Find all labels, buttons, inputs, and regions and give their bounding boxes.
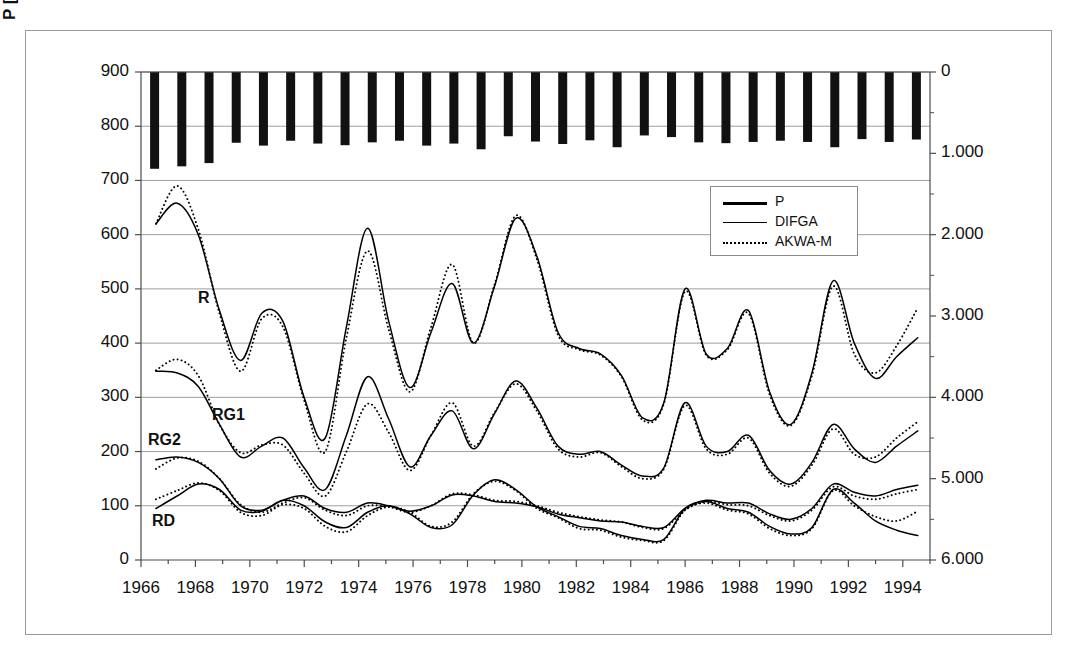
curve-rg2-difga	[156, 457, 918, 529]
legend-item-difga: DIFGA	[719, 213, 854, 233]
left-tick-label: 400	[0, 332, 129, 352]
precipitation-bar	[585, 72, 594, 140]
right-tick-label: 6.000	[941, 549, 984, 569]
x-tick-label: 1982	[550, 578, 602, 598]
left-tick-label: 0	[0, 549, 129, 569]
precipitation-bar	[830, 72, 839, 147]
precipitation-bar	[504, 72, 513, 136]
right-tick-label: 0	[941, 61, 950, 81]
right-tick-label: 3.000	[941, 305, 984, 325]
precipitation-bar	[749, 72, 758, 142]
precipitation-bar	[205, 72, 214, 163]
x-tick-label: 1994	[877, 578, 929, 598]
legend-label-p: P	[775, 193, 784, 209]
left-tick-label: 500	[0, 278, 129, 298]
precipitation-bar	[259, 72, 268, 146]
x-tick-label: 1974	[333, 578, 385, 598]
precipitation-bar	[857, 72, 866, 139]
x-tick-label: 1968	[169, 578, 221, 598]
precipitation-bar	[150, 72, 159, 169]
precipitation-bar	[422, 72, 431, 146]
precipitation-bar	[232, 72, 241, 143]
x-tick-label: 1988	[714, 578, 766, 598]
precipitation-bar	[341, 72, 350, 145]
left-tick-label: 200	[0, 441, 129, 461]
curve-rd-difga	[156, 480, 918, 542]
x-tick-label: 1980	[496, 578, 548, 598]
precipitation-bar	[368, 72, 377, 142]
left-tick-label: 800	[0, 115, 129, 135]
series-label-rd: RD	[152, 512, 175, 530]
legend-item-p: P	[719, 193, 854, 213]
precipitation-bar	[885, 72, 894, 142]
precipitation-bar	[531, 72, 540, 142]
right-tick-label: 2.000	[941, 224, 984, 244]
legend: P DIFGA AKWA-M	[710, 186, 858, 256]
right-axis-title: P [mm/a]	[0, 0, 20, 20]
legend-item-akwam: AKWA-M	[719, 233, 854, 253]
precipitation-bar	[694, 72, 703, 142]
x-tick-label: 1984	[605, 578, 657, 598]
series-label-r: R	[198, 289, 210, 307]
precipitation-bar	[395, 72, 404, 141]
curve-rd-akwa-m	[156, 481, 918, 543]
x-tick-label: 1978	[441, 578, 493, 598]
precipitation-bar	[912, 72, 921, 140]
precipitation-bar	[640, 72, 649, 135]
precipitation-bar	[613, 72, 622, 147]
curve-rg1-akwa-m	[156, 359, 918, 496]
precipitation-bar	[776, 72, 785, 141]
precipitation-bar	[286, 72, 295, 141]
right-tick-label: 1.000	[941, 142, 984, 162]
precipitation-bar	[558, 72, 567, 144]
curve-rg2-akwa-m	[156, 458, 918, 530]
precipitation-bar	[313, 72, 322, 144]
series-label-rg2: RG2	[148, 431, 181, 449]
series-label-rg1: RG1	[212, 406, 245, 424]
left-tick-label: 900	[0, 61, 129, 81]
legend-label-akwam: AKWA-M	[775, 233, 832, 249]
x-tick-label: 1986	[659, 578, 711, 598]
legend-swatch-p	[723, 202, 767, 205]
left-tick-label: 700	[0, 169, 129, 189]
x-tick-label: 1990	[768, 578, 820, 598]
x-tick-label: 1972	[278, 578, 330, 598]
precipitation-bar	[667, 72, 676, 137]
precipitation-bars	[150, 72, 921, 169]
left-tick-label: 300	[0, 386, 129, 406]
hydrology-chart	[0, 0, 1075, 663]
precipitation-bar	[721, 72, 730, 143]
precipitation-bar	[803, 72, 812, 142]
precipitation-bar	[449, 72, 458, 144]
x-tick-label: 1966	[115, 578, 167, 598]
left-tick-label: 600	[0, 224, 129, 244]
legend-swatch-difga	[723, 222, 767, 223]
precipitation-bar	[177, 72, 186, 166]
x-tick-label: 1970	[224, 578, 276, 598]
left-tick-label: 100	[0, 495, 129, 515]
axis-ticks	[135, 72, 936, 567]
chart-page: R [mm/a] P [mm/a] 9008007006005004003002…	[0, 0, 1075, 663]
precipitation-bar	[477, 72, 486, 149]
curve-rg1-difga	[156, 371, 918, 490]
x-tick-label: 1976	[387, 578, 439, 598]
legend-swatch-akwam	[723, 242, 767, 244]
right-tick-label: 5.000	[941, 468, 984, 488]
x-tick-label: 1992	[822, 578, 874, 598]
legend-label-difga: DIFGA	[775, 213, 818, 229]
right-tick-label: 4.000	[941, 386, 984, 406]
